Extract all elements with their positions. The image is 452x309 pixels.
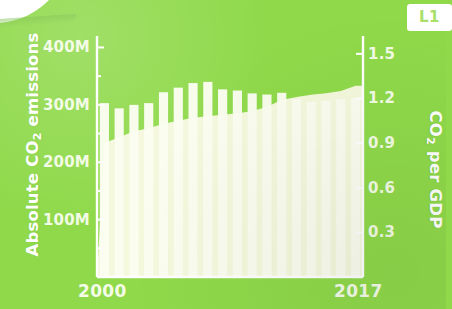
level-badge: L1 — [407, 4, 452, 31]
bar-2002 — [129, 105, 138, 277]
bar-2000 — [100, 103, 109, 277]
bar-2013 — [292, 99, 301, 277]
bar-2007 — [203, 82, 212, 277]
bar-2009 — [233, 91, 242, 277]
bar-2014 — [307, 102, 316, 277]
bar-2015 — [321, 101, 330, 277]
bar-2006 — [188, 83, 197, 277]
bar-2016 — [336, 99, 345, 277]
bar-2012 — [277, 93, 286, 277]
bar-2011 — [262, 95, 271, 277]
plot-layers — [97, 82, 363, 277]
bar-2004 — [159, 92, 168, 277]
bar-2010 — [248, 93, 257, 277]
bar-2001 — [115, 108, 124, 277]
bar-2008 — [218, 89, 227, 277]
bar-2005 — [174, 88, 183, 277]
bar-2003 — [144, 103, 153, 277]
